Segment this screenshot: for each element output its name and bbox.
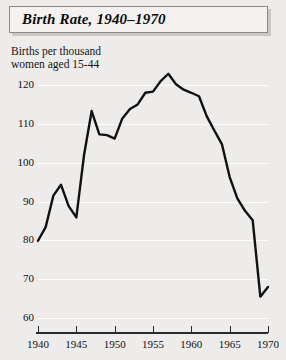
- birth-rate-line-series: [38, 78, 268, 319]
- x-axis-line: [36, 332, 268, 334]
- x-tick-mark-1970: [268, 326, 269, 333]
- y-axis-tick-labels: 60708090100110120: [6, 0, 34, 360]
- y-tick-label-110: 110: [8, 118, 34, 129]
- chart-figure: Birth Rate, 1940–1970 Births per thousan…: [0, 0, 286, 360]
- x-tick-label-1965: 1965: [210, 338, 250, 350]
- y-tick-label-60: 60: [8, 312, 34, 323]
- series-polyline: [38, 74, 268, 297]
- x-tick-label-1940: 1940: [18, 338, 58, 350]
- x-tick-mark-1960: [191, 326, 192, 333]
- x-tick-mark-1940: [38, 326, 39, 333]
- y-tick-label-90: 90: [8, 196, 34, 207]
- y-tick-label-100: 100: [8, 157, 34, 168]
- x-tick-label-1950: 1950: [95, 338, 135, 350]
- x-tick-label-1960: 1960: [171, 338, 211, 350]
- x-tick-mark-1950: [115, 326, 116, 333]
- y-tick-label-120: 120: [8, 79, 34, 90]
- y-tick-label-80: 80: [8, 234, 34, 245]
- x-tick-label-1970: 1970: [248, 338, 286, 350]
- chart-title-plate: Birth Rate, 1940–1970: [9, 6, 268, 33]
- x-tick-label-1955: 1955: [133, 338, 173, 350]
- x-tick-mark-1945: [76, 326, 77, 333]
- x-tick-mark-1965: [230, 326, 231, 333]
- x-tick-mark-1955: [153, 326, 154, 333]
- page-title: Birth Rate, 1940–1970: [22, 11, 166, 28]
- y-tick-label-70: 70: [8, 273, 34, 284]
- x-tick-label-1945: 1945: [56, 338, 96, 350]
- plot-area: [38, 78, 268, 319]
